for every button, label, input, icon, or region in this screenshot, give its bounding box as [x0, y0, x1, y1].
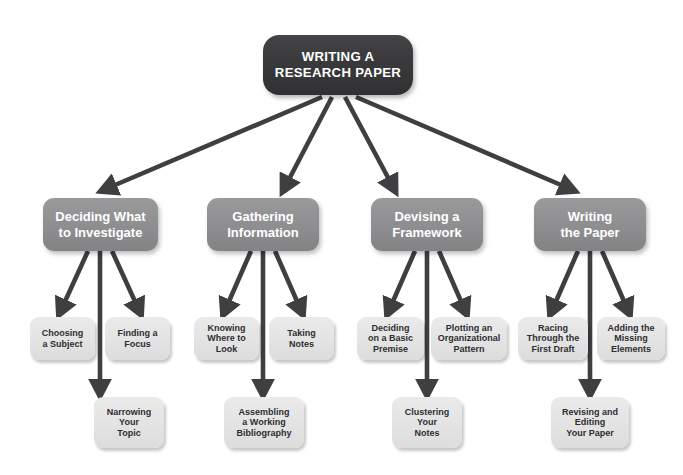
node-leaf-narrowing-your-topic-label: Narrowing Your Topic — [94, 407, 164, 439]
arrow-gathering-to-knowing — [226, 251, 251, 308]
node-leaf-adding-the-missing-elements-label: Adding the Missing Elements — [597, 323, 665, 355]
arrow-deciding-to-choosing — [62, 251, 88, 308]
node-leaf-assembling-a-working-bibliography-label: Assembling a Working Bibliography — [224, 407, 304, 439]
node-branch-devising-label: Devising a Framework — [371, 209, 483, 240]
node-leaf-racing-through-the-first-draft-label: Racing Through the First Draft — [518, 323, 588, 355]
node-leaf-deciding-on-a-basic-premise[interactable]: Deciding on a Basic Premise — [357, 317, 424, 360]
node-leaf-plotting-an-organizational-pattern-label: Plotting an Organizational Pattern — [431, 323, 507, 355]
node-leaf-choosing-a-subject-label: Choosing a Subject — [30, 328, 95, 349]
node-leaf-assembling-a-working-bibliography[interactable]: Assembling a Working Bibliography — [224, 397, 304, 448]
node-leaf-taking-notes-label: Taking Notes — [269, 328, 334, 349]
node-branch-deciding[interactable]: Deciding What to Investigate — [43, 198, 158, 251]
arrow-deciding-to-finding — [112, 251, 138, 308]
node-branch-gathering[interactable]: Gathering Information — [207, 198, 319, 251]
node-root[interactable]: WRITING A RESEARCH PAPER — [263, 35, 413, 95]
node-leaf-taking-notes[interactable]: Taking Notes — [269, 317, 334, 360]
node-leaf-deciding-on-a-basic-premise-label: Deciding on a Basic Premise — [357, 323, 424, 355]
node-leaf-knowing-where-to-look[interactable]: Knowing Where to Look — [194, 317, 259, 360]
arrow-writing-to-adding — [602, 251, 627, 308]
node-leaf-narrowing-your-topic[interactable]: Narrowing Your Topic — [94, 397, 164, 448]
node-branch-writing[interactable]: Writing the Paper — [534, 198, 646, 251]
node-leaf-knowing-where-to-look-label: Knowing Where to Look — [194, 323, 259, 355]
node-leaf-revising-and-editing-your-paper[interactable]: Revising and Editing Your Paper — [551, 397, 629, 448]
node-branch-deciding-label: Deciding What to Investigate — [43, 209, 158, 240]
node-branch-devising[interactable]: Devising a Framework — [371, 198, 483, 251]
node-branch-gathering-label: Gathering Information — [207, 209, 319, 240]
node-leaf-clustering-your-notes[interactable]: Clustering Your Notes — [392, 397, 462, 448]
node-leaf-revising-and-editing-your-paper-label: Revising and Editing Your Paper — [551, 407, 629, 439]
node-leaf-adding-the-missing-elements[interactable]: Adding the Missing Elements — [597, 317, 665, 360]
node-branch-writing-label: Writing the Paper — [534, 209, 646, 240]
node-leaf-finding-a-focus-label: Finding a Focus — [105, 328, 170, 349]
arrow-writing-to-racing — [553, 251, 578, 308]
node-root-label: WRITING A RESEARCH PAPER — [263, 49, 413, 80]
arrow-devising-to-plotting — [439, 251, 464, 308]
arrow-gathering-to-taking — [275, 251, 300, 308]
diagram-canvas: WRITING A RESEARCH PAPER Deciding What t… — [0, 0, 683, 475]
node-leaf-racing-through-the-first-draft[interactable]: Racing Through the First Draft — [518, 317, 588, 360]
node-leaf-plotting-an-organizational-pattern[interactable]: Plotting an Organizational Pattern — [431, 317, 507, 360]
node-leaf-choosing-a-subject[interactable]: Choosing a Subject — [30, 317, 95, 360]
node-leaf-clustering-your-notes-label: Clustering Your Notes — [392, 407, 462, 439]
arrow-devising-to-deciding-premise — [390, 251, 415, 308]
node-leaf-finding-a-focus[interactable]: Finding a Focus — [105, 317, 170, 360]
